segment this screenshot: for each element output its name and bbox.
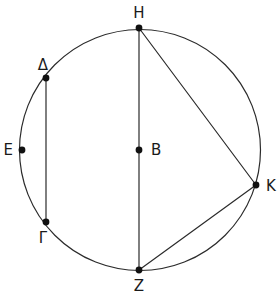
point-dot-H [136, 25, 143, 32]
point-dot-B [136, 147, 143, 154]
point-dot-K [253, 182, 260, 189]
point-label-E: E [4, 141, 13, 159]
geometry-diagram: H Δ E Γ B K Z [0, 0, 280, 296]
point-label-delta: Δ [38, 56, 49, 74]
point-label-K: K [266, 177, 277, 195]
point-dot-E [19, 147, 26, 154]
chord-eta-kappa [139, 28, 256, 185]
point-dot-Z [136, 267, 143, 274]
chord-zeta-kappa [139, 185, 256, 270]
point-label-gamma: Γ [39, 229, 48, 247]
point-label-Z: Z [134, 277, 144, 295]
point-dot-gamma [43, 219, 50, 226]
point-dot-delta [43, 75, 50, 82]
point-label-B: B [151, 141, 161, 159]
geometry-canvas: H Δ E Γ B K Z [0, 0, 280, 296]
point-label-H: H [133, 4, 144, 22]
